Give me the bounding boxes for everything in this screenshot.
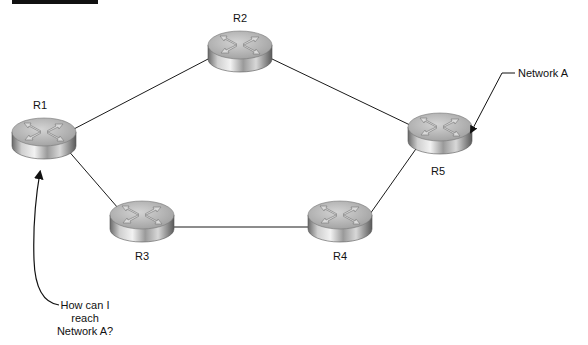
network-diagram: [0, 0, 588, 345]
question-line-1: How can I: [57, 299, 113, 312]
question-arrow: [34, 172, 59, 305]
links: [66, 58, 418, 227]
router-r5-icon: [408, 113, 472, 154]
link-r1-r3: [66, 148, 118, 208]
router-r3-label: R3: [135, 250, 149, 263]
router-r3-icon: [110, 201, 174, 242]
question-text: How can I reach Network A?: [57, 299, 113, 338]
router-r1-icon: [12, 118, 76, 159]
question-line-3: Network A?: [57, 325, 113, 338]
router-r5-label: R5: [431, 165, 445, 178]
network-a-label: Network A: [518, 67, 568, 80]
router-r4-icon: [308, 201, 372, 242]
router-r2-label: R2: [233, 12, 247, 25]
router-r2-icon: [208, 31, 272, 72]
link-r2-r5: [270, 58, 410, 125]
network-a-arrow: [471, 73, 515, 132]
link-r1-r2: [72, 58, 210, 130]
link-r4-r5: [370, 146, 418, 214]
question-line-2: reach: [57, 312, 113, 325]
router-r4-label: R4: [333, 250, 347, 263]
router-r1-label: R1: [33, 99, 47, 112]
